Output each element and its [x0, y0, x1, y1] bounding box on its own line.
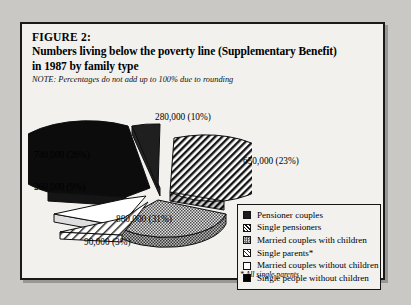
light-hatch-swatch-icon — [243, 249, 251, 257]
solid-dark-swatch-icon — [243, 211, 251, 219]
legend-label: Single pensioners — [257, 222, 321, 233]
pie-label-single-pensioners: 650,000 (23%) — [243, 156, 299, 166]
legend-item-single-pensioners: Single pensioners — [243, 222, 376, 235]
pie-label-single-parents: 90,000 (3%) — [84, 237, 130, 247]
legend-footnote: * All single parents — [240, 270, 299, 279]
pie-label-married-without-children: 260,000 (9%) — [34, 182, 85, 192]
legend-label: Married couples with children — [257, 235, 367, 246]
legend-item-pensioner-couples: Pensioner couples — [243, 209, 376, 222]
legend-item-single-parents: Single parents* — [243, 247, 376, 260]
pie-label-pensioner-couples: 280,000 (10%) — [155, 112, 211, 122]
figure-header: FIGURE 2: Numbers living below the pover… — [32, 30, 375, 86]
figure-frame: FIGURE 2: Numbers living below the pover… — [20, 22, 385, 280]
legend-label: Pensioner couples — [257, 210, 323, 221]
pie-slice-single-pensioners-body — [170, 135, 252, 201]
figure-title-line-2: in 1987 by family type — [32, 59, 375, 74]
figure-note: NOTE: Percentages do not add up to 100% … — [32, 74, 375, 86]
pie-label-married-with-children: 880,000 (31%) — [116, 214, 172, 224]
figure-title-line-1: Numbers living below the poverty line (S… — [32, 44, 375, 59]
checker-gray-swatch-icon — [243, 236, 251, 244]
pie-label-single-people: 740,000 (26%) — [34, 150, 90, 160]
legend-item-married-with-children: Married couples with children — [243, 234, 376, 247]
legend-label: Single parents* — [257, 248, 313, 259]
pie-chart: 280,000 (10%) 650,000 (23%) 880,000 (31%… — [22, 96, 252, 278]
white-swatch-icon — [243, 262, 251, 270]
figure-number: FIGURE 2: — [32, 30, 375, 44]
diagonal-hatch-swatch-icon — [243, 224, 251, 232]
